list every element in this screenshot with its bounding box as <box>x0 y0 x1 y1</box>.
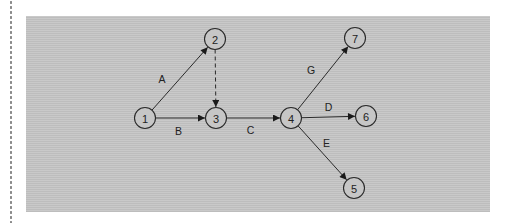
node-label: 3 <box>213 113 219 125</box>
node-7: 7 <box>345 28 366 49</box>
node-label: 5 <box>351 183 357 195</box>
node-label: 4 <box>288 113 294 125</box>
edge-label-b: B <box>175 125 182 137</box>
edge-label-d: D <box>325 101 333 113</box>
node-1: 1 <box>135 108 156 129</box>
node-label: 6 <box>363 111 369 123</box>
node-3: 3 <box>206 108 227 129</box>
node-6: 6 <box>356 106 377 127</box>
edge-4-7 <box>298 47 349 110</box>
network-diagram: ABCDEG 1234567 <box>0 0 512 223</box>
node-2: 2 <box>205 29 226 50</box>
node-4: 4 <box>281 108 302 129</box>
node-label: 7 <box>352 33 358 45</box>
edge-label-c: C <box>247 124 255 136</box>
node-5: 5 <box>344 178 365 199</box>
node-label: 1 <box>142 113 148 125</box>
edge-label-e: E <box>323 137 330 149</box>
edge-4-5 <box>298 126 347 180</box>
node-label: 2 <box>212 34 218 46</box>
edge-2-3 <box>215 49 216 107</box>
edge-4-6 <box>301 116 355 117</box>
edge-label-a: A <box>158 73 165 85</box>
edge-label-g: G <box>307 64 315 76</box>
